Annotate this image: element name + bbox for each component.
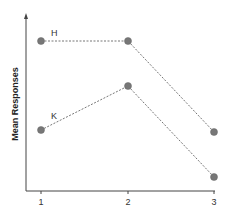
data-point <box>38 38 45 45</box>
y-axis-label: Mean Responses <box>10 67 20 141</box>
data-point <box>125 83 132 90</box>
data-point <box>38 127 45 134</box>
x-tick-label: 1 <box>38 197 43 207</box>
data-point <box>211 129 218 136</box>
line-chart: 1 2 3 Mean Responses H K <box>0 0 244 222</box>
x-tick-label: 3 <box>211 197 216 207</box>
x-tick-label: 2 <box>125 197 130 207</box>
series-label-k: K <box>51 111 57 121</box>
data-point <box>125 38 132 45</box>
data-point <box>211 174 218 181</box>
series-label-h: H <box>51 28 58 38</box>
series-k: K <box>38 83 218 181</box>
series-k-line <box>41 86 214 177</box>
y-axis-arrow-icon <box>24 13 28 19</box>
axes <box>24 13 215 194</box>
series-h: H <box>38 28 218 136</box>
